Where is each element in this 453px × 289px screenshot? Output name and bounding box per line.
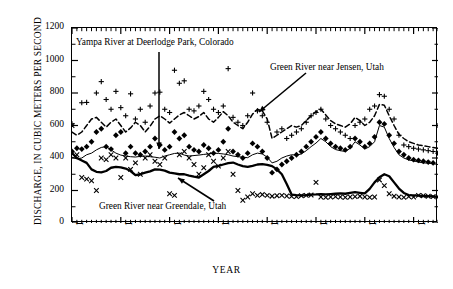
scatter-marker: [221, 103, 226, 108]
scatter-marker: [387, 191, 392, 196]
scatter-marker: [318, 129, 324, 135]
scatter-marker: [353, 194, 358, 199]
scatter-marker: [152, 90, 157, 95]
scatter-marker: [216, 147, 222, 153]
scatter-marker: [158, 162, 163, 167]
scatter-marker: [284, 194, 289, 199]
scatter-marker: [396, 149, 402, 155]
scatter-marker: [172, 129, 178, 135]
scatter-marker: [343, 195, 348, 200]
scatter-marker: [250, 90, 255, 95]
scatter-marker: [187, 107, 192, 112]
annotation-greendale: Green River near Greendale, Utah: [99, 201, 226, 211]
scatter-marker: [118, 105, 123, 110]
scatter-marker: [328, 140, 334, 146]
scatter-marker: [75, 152, 80, 157]
scatter-marker: [167, 144, 173, 150]
scatter-marker: [396, 133, 401, 138]
scatter-marker: [426, 148, 431, 153]
scatter-marker: [201, 142, 207, 148]
scatter-marker: [245, 195, 250, 200]
scatter-marker: [118, 129, 124, 135]
scatter-marker: [196, 103, 201, 108]
scatter-marker: [313, 134, 319, 140]
scatter-marker: [221, 156, 226, 161]
scatter-marker: [79, 100, 84, 105]
scatter-marker: [280, 193, 285, 198]
scatter-marker: [338, 129, 343, 134]
scatter-marker: [362, 116, 367, 121]
scatter-marker: [133, 116, 138, 121]
scatter-marker: [89, 139, 95, 145]
scatter-marker: [201, 89, 206, 94]
scatter-marker: [89, 178, 94, 183]
scatter-marker: [372, 195, 377, 200]
scatter-marker: [108, 107, 113, 112]
scatter-marker: [377, 119, 383, 125]
scatter-marker: [206, 145, 212, 151]
scatter-marker: [352, 136, 358, 142]
scatter-marker: [231, 172, 236, 177]
scatter-marker: [245, 150, 251, 156]
scatter-marker: [167, 191, 172, 196]
scatter-marker: [206, 152, 211, 157]
scatter-marker: [377, 92, 382, 97]
scatter-marker: [425, 159, 431, 165]
scatter-marker: [133, 161, 138, 166]
annotation-arrow: [259, 73, 306, 112]
scatter-marker: [382, 94, 387, 99]
scatter-marker: [392, 194, 397, 199]
scatter-marker: [167, 110, 172, 115]
scatter-marker: [226, 149, 231, 154]
scatter-marker: [289, 155, 295, 161]
scatter-marker: [270, 194, 275, 199]
chart-canvas: [72, 28, 438, 223]
scatter-marker: [314, 180, 319, 185]
scatter-marker: [94, 188, 99, 193]
scatter-marker: [182, 149, 187, 154]
scatter-marker: [328, 123, 333, 128]
scatter-marker: [104, 157, 109, 162]
scatter-marker: [197, 172, 202, 177]
scatter-marker: [284, 158, 290, 164]
scatter-marker: [333, 194, 338, 199]
scatter-marker: [333, 126, 338, 131]
scatter-marker: [308, 139, 314, 145]
scatter-marker: [181, 132, 187, 138]
scatter-marker: [245, 113, 250, 118]
scatter-marker: [186, 144, 192, 150]
scatter-marker: [362, 144, 368, 150]
scatter-marker: [421, 147, 426, 152]
annotation-jensen: Green River near Jensen, Utah: [270, 62, 384, 72]
scatter-marker: [284, 136, 289, 141]
scatter-marker: [323, 195, 328, 200]
scatter-marker: [274, 129, 279, 134]
scatter-marker: [119, 175, 124, 180]
scatter-marker: [201, 165, 206, 170]
scatter-marker: [94, 129, 100, 135]
annotation-yampa: Yampa River at Deerlodge Park, Colorado: [76, 37, 234, 47]
scatter-marker: [367, 107, 372, 112]
scatter-marker: [128, 91, 133, 96]
scatter-marker: [157, 90, 162, 95]
scatter-marker: [411, 146, 416, 151]
scatter-marker: [352, 123, 357, 128]
scatter-marker: [250, 191, 255, 196]
scatter-marker: [177, 81, 182, 86]
scatter-marker: [343, 133, 348, 138]
annotation-arrow: [178, 178, 214, 201]
scatter-marker: [348, 195, 353, 200]
scatter-marker: [363, 195, 368, 200]
chart-root: DISCHARGE, IN CUBIC METERS PER SECOND YE…: [0, 0, 453, 289]
plot-area: [71, 27, 437, 222]
scatter-marker: [162, 107, 167, 112]
scatter-marker: [153, 159, 158, 164]
scatter-marker: [260, 192, 265, 197]
scatter-marker: [230, 149, 236, 155]
scatter-marker: [196, 149, 202, 155]
scatter-marker: [435, 123, 438, 128]
annotation-arrow: [156, 52, 161, 149]
scatter-marker: [279, 162, 285, 168]
scatter-marker: [79, 175, 84, 180]
scatter-marker: [265, 193, 270, 198]
